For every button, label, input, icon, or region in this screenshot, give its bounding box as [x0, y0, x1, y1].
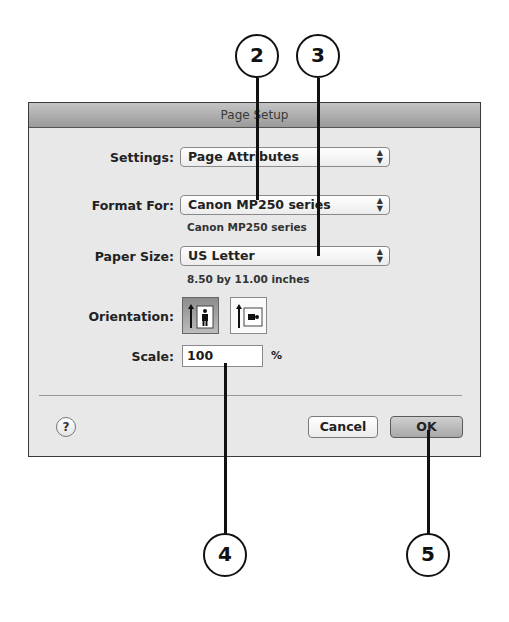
orientation-landscape-button[interactable]	[230, 297, 267, 334]
popup-arrows-icon: ▲▼	[377, 149, 383, 165]
help-button[interactable]: ?	[56, 417, 76, 437]
callout-4-leader	[224, 363, 227, 535]
paper-size-popup[interactable]: US Letter ▲▼	[180, 246, 390, 266]
orientation-portrait-button[interactable]	[182, 297, 219, 334]
callout-2: 2	[235, 34, 279, 78]
orientation-label: Orientation:	[34, 309, 174, 324]
dialog-title: Page Setup	[29, 103, 480, 128]
scale-unit: %	[271, 349, 282, 362]
settings-label: Settings:	[34, 150, 174, 165]
scale-field[interactable]: 100	[182, 345, 263, 367]
callout-4: 4	[203, 533, 247, 577]
format-for-popup[interactable]: Canon MP250 series ▲▼	[180, 195, 390, 215]
cancel-button[interactable]: Cancel	[308, 416, 378, 438]
separator	[39, 395, 462, 396]
settings-value: Page Attributes	[188, 149, 299, 164]
paper-size-detail: 8.50 by 11.00 inches	[187, 273, 310, 285]
format-for-label: Format For:	[34, 198, 174, 213]
paper-size-label: Paper Size:	[34, 249, 174, 264]
scale-label: Scale:	[34, 349, 174, 364]
callout-3-leader	[317, 78, 320, 256]
settings-popup[interactable]: Page Attributes ▲▼	[180, 147, 390, 167]
callout-3: 3	[296, 34, 340, 78]
page-setup-dialog: Page Setup Settings: Page Attributes ▲▼ …	[28, 102, 481, 457]
portrait-orientation-icon	[183, 298, 218, 333]
popup-arrows-icon: ▲▼	[377, 248, 383, 264]
popup-arrows-icon: ▲▼	[377, 197, 383, 213]
callout-2-leader	[256, 78, 259, 200]
callout-5-leader	[427, 430, 430, 534]
landscape-orientation-icon	[231, 298, 266, 333]
paper-size-value: US Letter	[188, 248, 255, 263]
format-for-value: Canon MP250 series	[188, 197, 331, 212]
format-for-detail: Canon MP250 series	[187, 221, 307, 233]
callout-5: 5	[406, 533, 450, 577]
